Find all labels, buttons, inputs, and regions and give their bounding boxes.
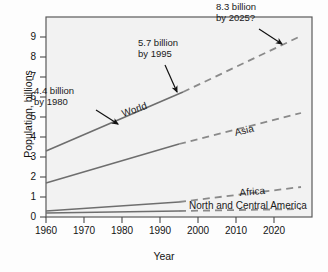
annotation-8-3-billion-line1: 8.3 billion xyxy=(216,2,256,13)
annotation-5-7-billion-line2: by 1995 xyxy=(138,49,178,60)
x-tick-label-1970: 1970 xyxy=(64,225,104,236)
y-axis-ticks xyxy=(40,37,46,217)
plot-area-background xyxy=(46,17,312,217)
x-tick-label-2000: 2000 xyxy=(178,225,218,236)
x-tick-label-2010: 2010 xyxy=(216,225,256,236)
x-tick-label-2020: 2020 xyxy=(254,225,294,236)
x-tick-label-1960: 1960 xyxy=(26,225,66,236)
x-tick-label-1990: 1990 xyxy=(140,225,180,236)
series-label-africa: Africa xyxy=(239,185,265,198)
x-axis-ticks xyxy=(46,217,274,223)
annotation-5-7-billion-line1: 5.7 billion xyxy=(138,38,178,49)
annotation-8-3-billion-line2: by 2025? xyxy=(216,13,256,24)
annotation-4-4-billion: 4.4 billion by 1980 xyxy=(34,86,74,107)
annotation-4-4-billion-line2: by 1980 xyxy=(34,97,74,108)
annotation-4-4-billion-line1: 4.4 billion xyxy=(34,86,74,97)
y-axis-title: Population, billions xyxy=(22,34,34,194)
x-axis-title: Year xyxy=(0,250,328,262)
series-label-north-central-america: North and Central America xyxy=(189,200,307,211)
x-tick-label-1980: 1980 xyxy=(102,225,142,236)
y-tick-label-0: 0 xyxy=(20,211,36,222)
annotation-5-7-billion: 5.7 billion by 1995 xyxy=(138,38,178,59)
population-growth-chart: 9 8 7 6 5 4 3 2 1 0 1960 1970 1980 1990 … xyxy=(0,0,328,272)
annotation-8-3-billion: 8.3 billion by 2025? xyxy=(216,2,256,23)
